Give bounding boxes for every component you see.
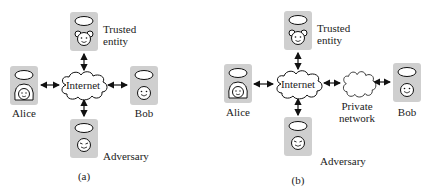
smiley-face-icon [401, 84, 414, 97]
private-network-cloud-b [343, 72, 375, 97]
sly-face-icon [78, 139, 91, 152]
panel-b: Internet Private network Trusted entity [224, 11, 421, 187]
internet-label-b: Internet [281, 78, 315, 90]
bob-label-a: Bob [135, 107, 154, 119]
internet-label-a: Internet [66, 79, 100, 91]
adversary-label-a: Adversary [103, 150, 149, 162]
trusted-label-a: Trusted [103, 23, 137, 35]
network-label-b: network [339, 112, 376, 124]
caption-b: (b) [292, 174, 305, 187]
adversary-node-a [70, 119, 98, 158]
entity-label-b: entity [317, 34, 343, 46]
trusted-label-b: Trusted [317, 22, 351, 34]
alice-label-b: Alice [226, 106, 250, 118]
panel-a: Internet Trusted entity Alice [10, 12, 158, 183]
internet-cloud-b: Internet [277, 71, 322, 99]
alice-label-a: Alice [12, 107, 36, 119]
internet-cloud-a: Internet [62, 72, 107, 100]
alice-node-b [224, 64, 252, 103]
adversary-node-b [284, 117, 312, 156]
bob-label-b: Bob [398, 106, 417, 118]
alice-node-a [10, 66, 38, 105]
caption-a: (a) [78, 170, 91, 183]
trusted-entity-node-a [70, 12, 98, 51]
sly-face-icon [292, 137, 305, 150]
private-label-b: Private [341, 100, 372, 112]
bob-node-b [393, 63, 421, 102]
entity-label-a: entity [103, 35, 129, 47]
bob-node-a [130, 66, 158, 105]
smiley-face-icon [138, 87, 151, 100]
adversary-label-b: Adversary [320, 155, 366, 167]
girl-face-icon [15, 84, 34, 100]
trusted-entity-node-b [284, 11, 312, 50]
network-diagram: Internet Trusted entity Alice [0, 0, 430, 191]
girl-face-icon [229, 82, 248, 98]
